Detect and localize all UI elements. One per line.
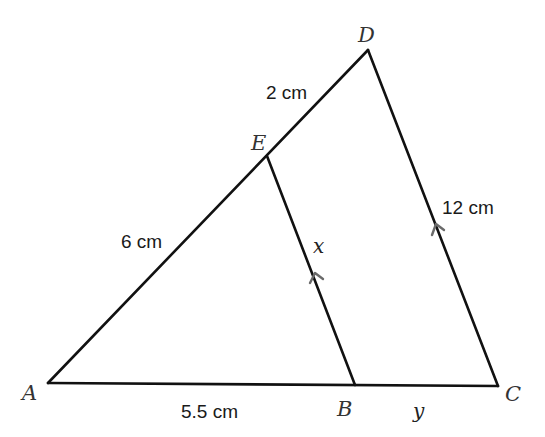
vertex-label-c: C [505,382,521,406]
segment-eb [267,156,355,385]
variable-label-x: x [313,234,324,258]
segment-ad [48,50,368,383]
length-label-ed: 2 cm [266,82,307,103]
vertex-label-d: D [357,23,375,47]
length-label-ab: 5.5 cm [181,401,238,422]
segment-dc [368,50,498,386]
variable-label-y: y [412,399,425,423]
vertex-label-b: B [336,397,352,421]
similar-triangles-diagram: A B C D E 2 cm 6 cm 12 cm 5.5 cm x y [0,0,545,437]
length-label-ae: 6 cm [121,231,162,252]
vertex-label-e: E [250,131,266,155]
vertex-label-a: A [20,381,37,405]
length-label-dc: 12 cm [442,197,494,218]
segment-ac [48,383,498,386]
